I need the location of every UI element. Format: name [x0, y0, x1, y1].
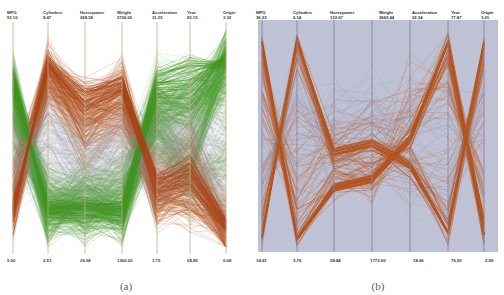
axis-header-cylinders: Cylinders6.14	[293, 10, 312, 20]
panel-a-chart	[0, 0, 252, 268]
axis-header-horsepower: Horsepower132.67	[330, 10, 354, 20]
axis-header-cylinders: Cylinders8.47	[43, 10, 62, 20]
axis-footer-weight: 1300.00	[117, 258, 133, 263]
axis-footer-year: 76.93	[451, 258, 462, 263]
axis-header-acceleration: Acceleration22.34	[412, 10, 437, 20]
axis-header-origin: Origin3.32	[223, 10, 235, 20]
axis-footer-weight: 1773.00	[370, 258, 386, 263]
caption-b: (b)	[252, 280, 504, 292]
axis-footer-acceleration: 18.96	[413, 258, 424, 263]
axis-footer-year: 68.85	[187, 258, 198, 263]
axis-header-weight: Weight5700.00	[117, 10, 132, 20]
axis-header-weight: Weight3662.44	[379, 10, 394, 20]
panel-b: MPG36.23 Cylinders6.14 Horsepower132.67 …	[252, 0, 504, 295]
axis-footer-horsepower: 29.58	[80, 258, 91, 263]
axis-footer-horsepower: 58.84	[330, 258, 341, 263]
axis-header-origin: Origin1.01	[481, 10, 493, 20]
axis-footer-origin: 0.99	[485, 258, 493, 263]
axis-footer-acceleration: 3.75	[152, 258, 160, 263]
axis-header-year: Year77.87	[451, 10, 462, 20]
axis-header-year: Year83.15	[187, 10, 198, 20]
axis-footer-mpg: 14.91	[256, 258, 267, 263]
axis-footer-cylinders: 2.53	[43, 258, 51, 263]
panel-b-plot-area	[252, 0, 504, 268]
axis-footer-origin: 0.68	[223, 258, 231, 263]
panel-a: MPG52.10 Cylinders8.47 Horsepower268.58 …	[0, 0, 252, 295]
caption-a: (a)	[0, 280, 252, 292]
axis-header-mpg: MPG52.10	[7, 10, 18, 20]
axis-header-horsepower: Horsepower268.58	[80, 10, 104, 20]
panel-b-chart	[252, 0, 504, 268]
axis-footer-mpg: 5.50	[7, 258, 15, 263]
panel-a-plot-area	[0, 0, 252, 268]
axis-header-acceleration: Acceleration31.25	[152, 10, 177, 20]
axis-header-mpg: MPG36.23	[256, 10, 267, 20]
parallel-coordinates-figure: MPG52.10 Cylinders8.47 Horsepower268.58 …	[0, 0, 504, 295]
axis-footer-cylinders: 3.76	[293, 258, 301, 263]
